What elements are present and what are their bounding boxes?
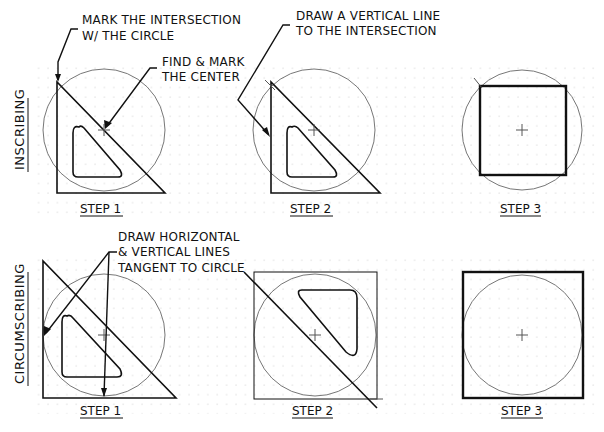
svg-text:STEP 3: STEP 3 <box>500 202 541 216</box>
svg-text:STEP 1: STEP 1 <box>80 404 121 418</box>
annotation-draw-tangent: DRAW HORIZONTAL & VERTICAL LINES TANGENT… <box>117 230 245 275</box>
row-label-circumscribing: CIRCUMSCRIBING <box>12 263 28 386</box>
svg-text:FIND & MARK: FIND & MARK <box>162 55 246 69</box>
svg-text:CIRCUMSCRIBING: CIRCUMSCRIBING <box>12 263 27 384</box>
diagram-canvas: INSCRIBING CIRCUMSCRIBING STEP 1 MARK TH… <box>0 0 604 432</box>
svg-text:TANGENT TO CIRCLE: TANGENT TO CIRCLE <box>117 261 245 275</box>
svg-text:W/ THE CIRCLE: W/ THE CIRCLE <box>82 29 174 43</box>
svg-text:& VERTICAL LINES: & VERTICAL LINES <box>118 245 230 259</box>
svg-text:MARK THE INTERSECTION: MARK THE INTERSECTION <box>82 13 241 27</box>
svg-text:STEP 3: STEP 3 <box>501 404 542 418</box>
annotation-find-center: FIND & MARK THE CENTER <box>161 55 246 84</box>
svg-text:STEP 2: STEP 2 <box>292 404 333 418</box>
annotation-draw-vertical: DRAW A VERTICAL LINE TO THE INTERSECTION <box>295 9 440 38</box>
row-label-inscribing: INSCRIBING <box>12 89 28 172</box>
annotation-mark-intersection: MARK THE INTERSECTION W/ THE CIRCLE <box>82 13 241 43</box>
svg-text:INSCRIBING: INSCRIBING <box>12 89 27 170</box>
svg-text:STEP 2: STEP 2 <box>290 202 331 216</box>
svg-text:STEP 1: STEP 1 <box>80 202 121 216</box>
svg-text:DRAW HORIZONTAL: DRAW HORIZONTAL <box>118 230 240 244</box>
svg-text:THE CENTER: THE CENTER <box>161 70 240 84</box>
svg-text:DRAW A VERTICAL LINE: DRAW A VERTICAL LINE <box>296 9 440 23</box>
svg-text:TO THE INTERSECTION: TO THE INTERSECTION <box>295 24 437 38</box>
